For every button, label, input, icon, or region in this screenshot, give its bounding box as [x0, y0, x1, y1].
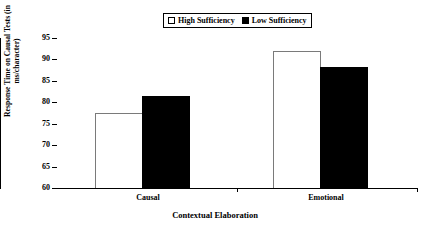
open-square-icon	[168, 17, 175, 24]
x-axis-tick-separator-2	[417, 188, 418, 192]
y-axis-label-75: 75	[8, 120, 50, 128]
y-axis-label-85: 85	[8, 77, 50, 85]
y-axis-tick-60	[52, 188, 57, 189]
bar-emotional-low-sufficiency	[320, 67, 368, 188]
plot-area	[57, 38, 417, 188]
y-axis-label-60: 60	[8, 184, 50, 192]
y-axis-label-65: 65	[8, 163, 50, 171]
y-axis-label-80: 80	[8, 98, 50, 106]
y-axis-label-95: 95	[8, 34, 50, 42]
y-axis-label-70: 70	[8, 141, 50, 149]
legend-entry-low-sufficiency: Low Sufficiency	[242, 17, 307, 25]
y-axis-title: Response Time on Causal Tests (in ms/cha…	[0, 0, 24, 137]
legend-label-low-sufficiency: Low Sufficiency	[252, 17, 307, 25]
bar-causal-low-sufficiency	[142, 96, 190, 188]
y-axis-line	[0, 38, 1, 189]
x-axis-category-emotional: Emotional	[291, 194, 361, 202]
bar-chart-figure: High Sufficiency Low Sufficiency Respons…	[0, 0, 430, 236]
filled-square-icon	[242, 17, 249, 24]
x-axis-title: Contextual Elaboration	[0, 211, 430, 220]
chart-legend: High Sufficiency Low Sufficiency	[163, 13, 312, 28]
bar-emotional-high-sufficiency	[273, 51, 321, 188]
y-axis-label-90: 90	[8, 55, 50, 63]
x-axis-category-causal: Causal	[113, 194, 183, 202]
x-axis-tick-separator-1	[237, 188, 238, 192]
legend-entry-high-sufficiency: High Sufficiency	[168, 17, 235, 25]
bar-causal-high-sufficiency	[95, 113, 143, 188]
legend-label-high-sufficiency: High Sufficiency	[178, 17, 235, 25]
